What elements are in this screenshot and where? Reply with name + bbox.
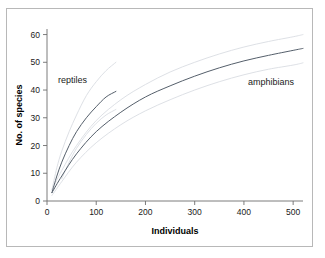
y-tick-label: 20 bbox=[31, 141, 41, 151]
y-axis-tick-labels: 0102030405060 bbox=[31, 30, 41, 206]
x-axis-tick-labels: 0100200300400500 bbox=[45, 207, 301, 217]
chart-figure: 0102030405060 0100200300400500 reptiles … bbox=[0, 0, 325, 258]
series-label-amphibians: amphibians bbox=[248, 77, 295, 87]
y-tick-label: 30 bbox=[31, 113, 41, 123]
y-axis-group: 0102030405060 bbox=[31, 29, 47, 206]
y-tick-label: 60 bbox=[31, 30, 41, 40]
series-label-reptiles: reptiles bbox=[58, 75, 88, 85]
x-axis-ticks bbox=[47, 201, 293, 205]
x-tick-label: 400 bbox=[237, 207, 251, 217]
x-tick-label: 300 bbox=[188, 207, 202, 217]
x-tick-label: 500 bbox=[286, 207, 300, 217]
y-axis-title: No. of species bbox=[14, 84, 24, 145]
x-axis-title: Individuals bbox=[151, 226, 198, 236]
y-tick-label: 50 bbox=[31, 57, 41, 67]
x-tick-label: 200 bbox=[138, 207, 152, 217]
x-tick-label: 100 bbox=[89, 207, 103, 217]
y-axis-ticks bbox=[43, 35, 47, 201]
curve-amphibians-upper-ci bbox=[52, 35, 303, 190]
x-tick-label: 0 bbox=[45, 207, 50, 217]
species-accumulation-chart: 0102030405060 0100200300400500 reptiles … bbox=[0, 0, 325, 258]
y-tick-label: 0 bbox=[35, 196, 40, 206]
y-tick-label: 10 bbox=[31, 168, 41, 178]
x-axis-group: 0100200300400500 bbox=[45, 201, 303, 217]
y-tick-label: 40 bbox=[31, 85, 41, 95]
curve-reptiles bbox=[52, 91, 116, 192]
confidence-bands bbox=[52, 35, 303, 196]
